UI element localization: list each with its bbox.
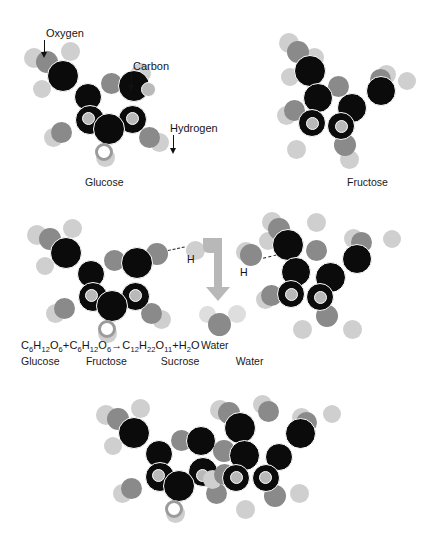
carbon-atom xyxy=(118,417,150,449)
carbon-atom xyxy=(93,113,125,145)
oxygen-atom xyxy=(95,143,113,161)
carbon-atom xyxy=(163,470,195,502)
carbon-atom xyxy=(50,237,82,269)
oxygen-atom xyxy=(85,289,98,302)
hydrogen-atom xyxy=(63,219,82,238)
oxygen-atom xyxy=(98,320,116,338)
equation-name-sucrose: Sucrose xyxy=(161,355,233,367)
equation-names: Glucose Fructose Sucrose Water xyxy=(21,355,263,367)
dashed-bond-left xyxy=(168,246,185,251)
oxygen-atom xyxy=(258,401,279,422)
carbon-atom xyxy=(186,426,216,456)
carbon-atom xyxy=(96,290,128,322)
oxygen-atom xyxy=(129,289,142,302)
hydrogen-callout-label: Hydrogen xyxy=(170,122,218,134)
hydrogen-atom xyxy=(398,72,416,90)
oxygen-atom xyxy=(306,240,327,261)
oxygen-atom xyxy=(335,120,348,133)
oxygen-atom xyxy=(285,288,298,301)
oxygen-atom xyxy=(240,244,262,266)
figure-canvas: Oxygen Carbon Hydrogen Glucose xyxy=(0,0,440,533)
carbon-callout-label: Carbon xyxy=(133,60,169,72)
oxygen-atom xyxy=(141,82,156,97)
carbon-atom xyxy=(366,76,396,106)
oxygen-atom xyxy=(126,112,139,125)
equation-name-water: Water xyxy=(236,355,264,367)
hydrogen-label-left: H xyxy=(187,253,195,265)
equation-name-fructose: Fructose xyxy=(86,355,158,367)
oxygen-atom xyxy=(306,117,319,130)
oxygen-atom xyxy=(82,112,95,125)
molecule-label-glucose: Glucose xyxy=(85,176,124,188)
oxygen-atom xyxy=(152,469,165,482)
hydrogen-atom xyxy=(228,305,246,323)
carbon-atom xyxy=(272,229,304,261)
equation-formula: C6H12O6+C6H12O6→C12H22O11+H2O xyxy=(21,339,200,351)
carbon-atom xyxy=(121,247,153,279)
hydrogen-atom xyxy=(383,230,401,248)
hydrogen-atom xyxy=(290,484,309,503)
hydrogen-atom xyxy=(287,140,306,159)
oxygen-atom xyxy=(208,313,231,336)
oxygen-callout-label: Oxygen xyxy=(46,27,84,39)
hydrogen-atom xyxy=(343,320,362,339)
hydrogen-atom xyxy=(323,405,341,423)
carbon-atom xyxy=(294,55,326,87)
oxygen-atom xyxy=(259,471,272,484)
equation-name-glucose: Glucose xyxy=(21,355,83,367)
oxygen-atom xyxy=(230,471,243,484)
molecule-label-fructose: Fructose xyxy=(347,176,388,188)
carbon-atom xyxy=(47,60,79,92)
hydrogen-atom xyxy=(131,399,150,418)
chemical-equation: C6H12O6+C6H12O6→C12H22O11+H2O xyxy=(21,339,200,354)
hydrogen-atom xyxy=(307,213,326,232)
carbon-atom xyxy=(224,412,256,444)
oxygen-atom xyxy=(314,291,327,304)
hydrogen-label-right: H xyxy=(240,266,248,278)
carbon-atom xyxy=(285,418,316,449)
hydrogen-atom xyxy=(293,320,312,339)
molecule-label-water: Water xyxy=(201,339,229,351)
hydrogen-atom xyxy=(236,500,255,519)
oxygen-atom xyxy=(165,500,183,518)
hydrogen-atom xyxy=(61,42,80,61)
oxygen-atom xyxy=(51,122,72,143)
oxygen-atom xyxy=(54,298,75,319)
oxygen-atom xyxy=(121,478,142,499)
carbon-atom xyxy=(342,244,372,274)
